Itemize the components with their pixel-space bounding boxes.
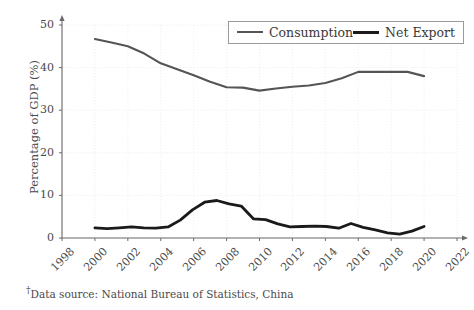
y-tick-label: 20 [28,146,54,159]
axis-lines [59,15,468,241]
legend-label-net-export: Net Export [385,25,455,40]
legend-item-net-export: Net Export [353,25,455,40]
plot-area [0,0,474,310]
legend-label-consumption: Consumption [269,25,353,40]
tick-marks [59,25,457,241]
legend-swatch-consumption [237,31,263,33]
footnote-text: Data source: National Bureau of Statisti… [31,288,294,300]
y-tick-label: 40 [28,61,54,74]
legend-swatch-net-export [353,31,379,34]
y-tick-label: 0 [28,231,54,244]
chart-legend: Consumption Net Export [228,21,464,44]
gridlines [62,25,457,238]
y-tick-label: 50 [28,18,54,31]
footnote: †Data source: National Bureau of Statist… [26,285,293,300]
y-tick-label: 30 [28,103,54,116]
chart-figure: Percentage of GDP (%) 01020304050 199820… [0,0,474,310]
legend-item-consumption: Consumption [237,25,353,40]
y-tick-label: 10 [28,188,54,201]
